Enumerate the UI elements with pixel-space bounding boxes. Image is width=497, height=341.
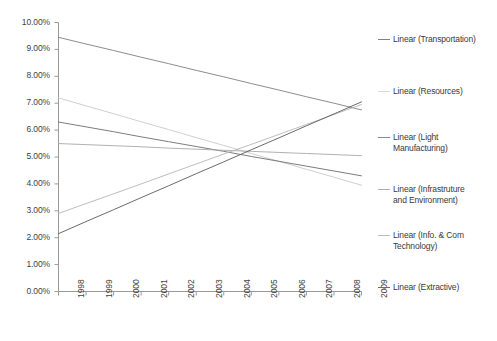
legend-entry[interactable]: Linear (Transportation) <box>378 34 476 45</box>
chart-container: 0.00%1.00%2.00%3.00%4.00%5.00%6.00%7.00%… <box>0 0 497 341</box>
legend-entry[interactable]: Linear (Extractive) <box>378 282 459 293</box>
x-axis-tick-label: 1998 <box>76 279 86 298</box>
legend-entry[interactable]: Linear (Info. & Com Technology) <box>378 230 464 251</box>
y-axis-tick-label: 8.00% <box>4 70 50 80</box>
series-lines-layer <box>59 37 362 233</box>
y-axis-tick-label: 10.00% <box>4 17 50 27</box>
x-axis-tick-label: 2004 <box>242 279 252 298</box>
legend-line-swatch <box>378 137 390 138</box>
x-axis-tick-label: 2000 <box>131 279 141 298</box>
y-axis-tick-label: 9.00% <box>4 43 50 53</box>
y-axis-tick-label: 6.00% <box>4 124 50 134</box>
x-axis-tick-label: 2008 <box>352 279 362 298</box>
legend-entry[interactable]: Linear (Light Manufacturing) <box>378 132 448 153</box>
legend-label: Linear (Resources) <box>393 86 463 97</box>
y-axis-tick-label: 7.00% <box>4 97 50 107</box>
axis-layer <box>55 23 362 296</box>
legend-entry[interactable]: Linear (Resources) <box>378 86 463 97</box>
x-axis-tick-label: 1999 <box>104 279 114 298</box>
legend-line-swatch <box>378 287 390 288</box>
x-axis-tick-label: 2002 <box>186 279 196 298</box>
legend-label: Linear (Light Manufacturing) <box>393 132 448 153</box>
legend-line-swatch <box>378 39 390 40</box>
y-axis-tick-label: 3.00% <box>4 205 50 215</box>
legend-line-swatch <box>378 235 390 236</box>
y-axis-tick-label: 4.00% <box>4 178 50 188</box>
x-axis-tick-label: 2003 <box>214 279 224 298</box>
x-axis-tick-label: 2005 <box>269 279 279 298</box>
legend-label: Linear (Transportation) <box>393 34 476 45</box>
legend-label: Linear (Extractive) <box>393 282 459 293</box>
trendline-linear-transportation <box>59 37 362 110</box>
trendline-linear-info-com-technology <box>59 105 362 214</box>
y-axis-tick-label: 2.00% <box>4 232 50 242</box>
trendline-linear-resources <box>59 98 362 185</box>
y-axis-tick-label: 0.00% <box>4 286 50 296</box>
legend-entry[interactable]: Linear (Infrastruture and Environment) <box>378 184 465 205</box>
legend-line-swatch <box>378 189 390 190</box>
x-axis-tick-label: 2007 <box>324 279 334 298</box>
y-axis-tick-label: 1.00% <box>4 259 50 269</box>
legend-label: Linear (Info. & Com Technology) <box>393 230 464 251</box>
y-axis-tick-label: 5.00% <box>4 151 50 161</box>
legend-line-swatch <box>378 91 390 92</box>
x-axis-tick-label: 2006 <box>297 279 307 298</box>
legend-label: Linear (Infrastruture and Environment) <box>393 184 465 205</box>
x-axis-tick-label: 2001 <box>159 279 169 298</box>
trendline-linear-infrastruture-and-environment <box>59 144 362 156</box>
